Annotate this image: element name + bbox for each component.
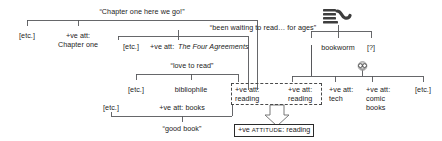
node-ve-att-tech-value: tech: [329, 95, 343, 103]
node-question-mark: [?]: [367, 44, 375, 52]
final-prefix: +ve: [238, 125, 252, 134]
node-etc-left-top: [etc.]: [19, 32, 35, 40]
node-ve-att-reading1-value: reading: [235, 95, 259, 103]
node-ve-att-comic-value2: books: [366, 104, 385, 112]
connector-lines: [0, 0, 442, 141]
node-etc-third-row: [etc.]: [128, 86, 144, 94]
node-etc-fourth-row: [etc.]: [103, 104, 119, 112]
node-ve-att-books: +ve att: books: [159, 104, 205, 112]
down-arrow-icon: [265, 105, 289, 126]
node-chapter-one-quote: “Chapter one here we go!”: [99, 8, 184, 16]
node-four-agreements-title: The Four Agreements: [178, 43, 249, 51]
final-suffix: : reading: [282, 125, 310, 134]
node-bibliophile: bibliophile: [175, 86, 208, 94]
node-etc-far-right: [etc.]: [415, 86, 431, 94]
node-been-waiting-quote: “been waiting to read… for ages”: [210, 24, 316, 32]
node-bookworm: bookworm: [321, 44, 355, 52]
final-attitude-node: +ve ATTITUDE: reading: [234, 124, 314, 137]
stacked-books-worm-icon: [322, 7, 352, 25]
node-ve-att-reading2-value: reading: [288, 95, 312, 103]
node-ve-att-chapter-value: Chapter one: [58, 41, 98, 49]
node-etc-second-row: [etc.]: [123, 43, 139, 51]
node-good-book-quote: “good book”: [163, 125, 202, 133]
node-ve-att-book-label: +ve att:: [150, 43, 176, 51]
node-love-to-read-quote: “love to read”: [170, 62, 213, 70]
nerd-face-emoji-icon: [356, 58, 369, 69]
diagram-canvas: “Chapter one here we go!” [etc.] +ve att…: [0, 0, 442, 141]
final-keyword: ATTITUDE: [252, 127, 283, 133]
